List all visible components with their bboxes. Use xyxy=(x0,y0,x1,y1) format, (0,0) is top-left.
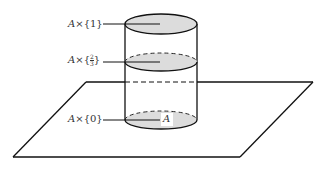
leader-lines xyxy=(103,24,160,120)
label-base-region: A xyxy=(163,113,170,124)
times-symbol: × xyxy=(75,54,83,65)
label-bottom: A×{0} xyxy=(68,113,103,124)
label-top: A×{1} xyxy=(68,18,103,29)
label-top-value: {1} xyxy=(84,18,103,29)
cylinder-over-plane-diagram xyxy=(0,0,325,171)
brace-close: } xyxy=(94,54,100,65)
times-symbol: × xyxy=(75,18,83,29)
label-bottom-value: {0} xyxy=(84,113,103,124)
cylinder-sides xyxy=(125,24,197,120)
label-middle: A×{23} xyxy=(68,54,100,67)
base-region-letter: A xyxy=(163,113,170,124)
times-symbol: × xyxy=(75,113,83,124)
